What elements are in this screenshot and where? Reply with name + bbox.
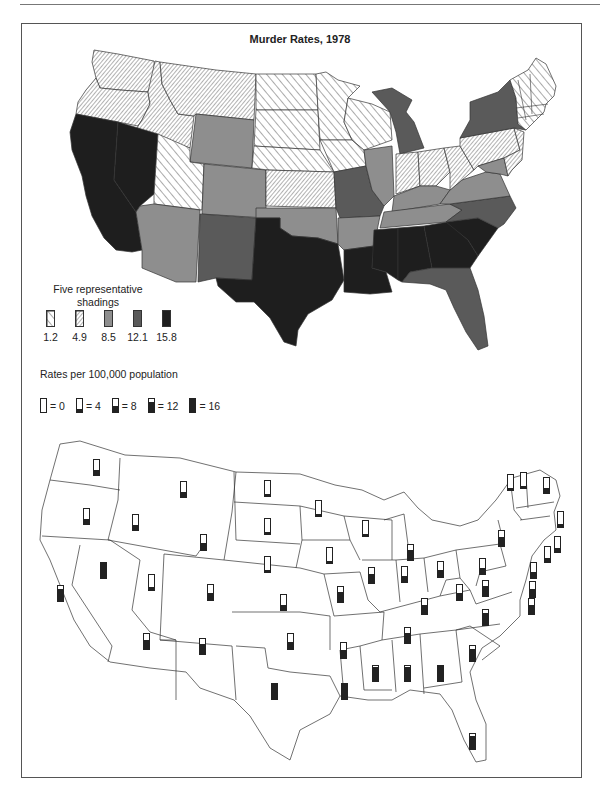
state-bar-tx — [271, 683, 278, 700]
state-bar-ky — [421, 598, 428, 615]
state-bar-ga — [437, 665, 444, 682]
bar-glyph-map — [0, 0, 600, 793]
state-bar-wi — [362, 520, 369, 537]
state-bar-or — [83, 508, 90, 525]
state-bar-nm — [199, 638, 206, 655]
state-bar-wv — [456, 584, 463, 601]
state-bar-nc — [482, 609, 489, 626]
state-bar-id — [132, 514, 139, 531]
state-bar-ne — [264, 556, 271, 573]
state-bar-ct — [544, 546, 551, 563]
state-bar-ar — [340, 642, 347, 659]
state-bar-nd — [264, 480, 271, 497]
state-bar-ma — [557, 511, 564, 528]
state-bar-ia — [326, 547, 333, 564]
state-bar-wa — [93, 459, 100, 476]
state-bar-az — [143, 633, 150, 650]
state-bar-co — [207, 584, 214, 601]
state-bar-ok — [287, 633, 294, 650]
state-bar-ms — [372, 665, 379, 682]
state-bar-wy — [200, 534, 207, 551]
state-bar-la — [341, 683, 348, 700]
state-bar-mt — [180, 481, 187, 498]
state-bar-sd — [264, 518, 271, 535]
state-bar-mn — [315, 500, 322, 517]
state-bar-oh — [437, 561, 444, 578]
state-bar-ca — [57, 585, 64, 602]
state-bar-ut — [148, 574, 155, 591]
state-bar-ny — [498, 530, 505, 547]
state-bar-mo — [337, 586, 344, 603]
state-bar-sc — [469, 645, 476, 662]
state-bar-vt — [507, 474, 514, 491]
state-bar-al — [404, 665, 411, 682]
state-bar-de — [529, 581, 536, 598]
state-bar-ks — [280, 594, 287, 611]
state-bar-fl — [469, 733, 476, 750]
state-bar-nv — [100, 562, 107, 579]
state-bar-tn — [404, 627, 411, 644]
us-outline — [40, 441, 560, 762]
state-bar-il — [368, 567, 375, 584]
state-bar-md — [528, 598, 535, 615]
state-bar-ri — [554, 536, 561, 553]
state-bar-me — [543, 477, 550, 494]
state-bar-nh — [520, 472, 527, 489]
state-bar-va — [482, 580, 489, 597]
state-bar-nj — [530, 562, 537, 579]
state-bar-pa — [479, 558, 486, 575]
state-bar-mi — [407, 544, 414, 561]
state-bar-in — [401, 566, 408, 583]
